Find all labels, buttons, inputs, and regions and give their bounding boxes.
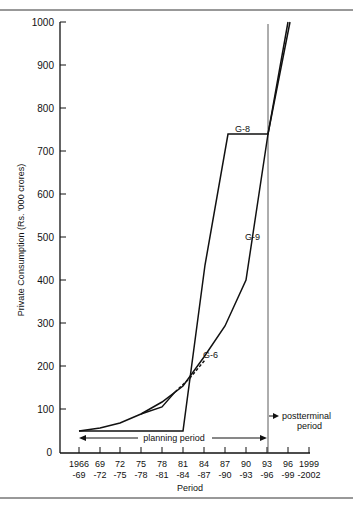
y-label-900: 900 bbox=[37, 60, 54, 71]
g9-label: G-9 bbox=[245, 232, 260, 242]
g6-label: G-6 bbox=[203, 350, 218, 360]
x-label-bottom: -96 bbox=[260, 470, 273, 480]
x-label-top: 87 bbox=[220, 459, 230, 469]
x-label-top: 78 bbox=[157, 459, 167, 469]
x-label-bottom: -84 bbox=[176, 470, 189, 480]
x-label-top: 75 bbox=[136, 459, 146, 469]
y-tick-labels: 0 100 200 300 400 500 600 700 800 900 10… bbox=[32, 17, 55, 458]
x-label-bottom: -81 bbox=[155, 470, 168, 480]
x-label-top: 69 bbox=[95, 459, 105, 469]
g8-label: G-8 bbox=[235, 124, 250, 134]
arrow-right-icon bbox=[273, 413, 279, 419]
postterminal-label: postterminal bbox=[282, 411, 331, 421]
y-axis-title: Private Consumption (Rs. '000 crores) bbox=[16, 164, 26, 316]
x-label-bottom: -87 bbox=[197, 470, 210, 480]
x-label-bottom: -72 bbox=[93, 470, 106, 480]
x-tick-labels: 1966 69 72 75 78 81 84 87 90 93 96 1999 … bbox=[69, 459, 321, 480]
postterminal-label-2: period bbox=[297, 421, 322, 431]
arrow-right-icon bbox=[260, 435, 267, 441]
y-label-700: 700 bbox=[37, 146, 54, 157]
x-label-top: 81 bbox=[178, 459, 188, 469]
x-label-top: 72 bbox=[115, 459, 125, 469]
arrow-left-icon bbox=[79, 435, 86, 441]
x-label-top: 90 bbox=[241, 459, 251, 469]
x-label-bottom: -93 bbox=[239, 470, 252, 480]
planning-period-label: planning period bbox=[143, 433, 205, 443]
y-label-500: 500 bbox=[37, 232, 54, 243]
x-label-top: 84 bbox=[199, 459, 209, 469]
x-label-bottom: -2002 bbox=[297, 470, 320, 480]
x-label-bottom: -78 bbox=[134, 470, 147, 480]
x-label-top: 96 bbox=[283, 459, 293, 469]
x-axis-title: Period bbox=[177, 483, 203, 493]
x-label-bottom: -90 bbox=[218, 470, 231, 480]
y-ticks bbox=[60, 22, 66, 409]
y-label-400: 400 bbox=[37, 275, 54, 286]
x-label-top: 93 bbox=[262, 459, 272, 469]
x-label-top: 1966 bbox=[69, 459, 89, 469]
y-label-0: 0 bbox=[46, 447, 52, 458]
y-label-800: 800 bbox=[37, 103, 54, 114]
x-ticks bbox=[79, 447, 309, 453]
series-g8 bbox=[79, 22, 290, 431]
y-label-300: 300 bbox=[37, 318, 54, 329]
x-label-bottom: -69 bbox=[72, 470, 85, 480]
y-label-200: 200 bbox=[37, 361, 54, 372]
y-label-100: 100 bbox=[37, 404, 54, 415]
x-label-top: 1999 bbox=[299, 459, 319, 469]
chart: 0 100 200 300 400 500 600 700 800 900 10… bbox=[0, 0, 353, 506]
y-label-600: 600 bbox=[37, 189, 54, 200]
y-label-1000: 1000 bbox=[32, 17, 55, 28]
x-label-bottom: -99 bbox=[281, 470, 294, 480]
x-label-bottom: -75 bbox=[113, 470, 126, 480]
series-g9 bbox=[79, 22, 288, 431]
